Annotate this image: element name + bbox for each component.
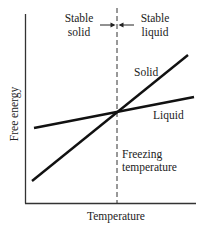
liquid-series-label: Liquid	[153, 109, 184, 122]
x-axis-title: Temperature	[87, 210, 145, 223]
freezing-temperature-label-line2: temperature	[122, 161, 177, 174]
stable-liquid-label-line2: liquid	[142, 26, 169, 39]
solid-series-label: Solid	[134, 66, 159, 78]
freezing-temperature-label-line1: Freezing	[122, 148, 162, 161]
left-arrow-icon	[100, 23, 116, 28]
free-energy-diagram: Stable solid Stable liquid Solid Liquid …	[0, 0, 208, 233]
stable-solid-label-line2: solid	[68, 26, 91, 38]
right-arrow-icon	[119, 23, 135, 28]
stable-liquid-label-line1: Stable	[141, 12, 170, 24]
stable-solid-label-line1: Stable	[65, 12, 94, 24]
y-axis-title: Free energy	[8, 87, 21, 142]
